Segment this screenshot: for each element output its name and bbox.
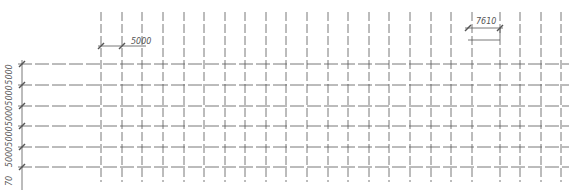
dimension-annotations: 5000 7610 5000500050005000500070 [5, 17, 503, 190]
dimension-label: 5000 [5, 147, 14, 167]
dimension-label: 70 [5, 176, 14, 186]
dimension-label: 7610 [476, 17, 496, 26]
dimension-label: 5000 [5, 126, 14, 146]
dimension-left-chain: 5000500050005000500070 [5, 60, 25, 190]
dimension-top-right: 7610 [465, 17, 503, 40]
dimension-top-left: 5000 [98, 37, 151, 49]
vertical-grid-lines [101, 12, 561, 182]
dimension-label: 5000 [5, 106, 14, 126]
grid-drawing-canvas: 5000 7610 5000500050005000500070 [0, 0, 569, 190]
dimension-label: 5000 [131, 37, 151, 46]
dimension-label: 5000 [5, 64, 14, 84]
dimension-label: 5000 [5, 85, 14, 105]
